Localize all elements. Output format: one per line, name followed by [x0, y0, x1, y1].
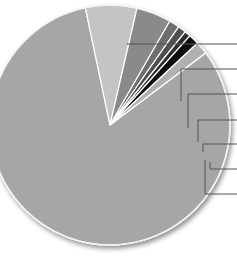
pie-chart: [0, 0, 237, 257]
